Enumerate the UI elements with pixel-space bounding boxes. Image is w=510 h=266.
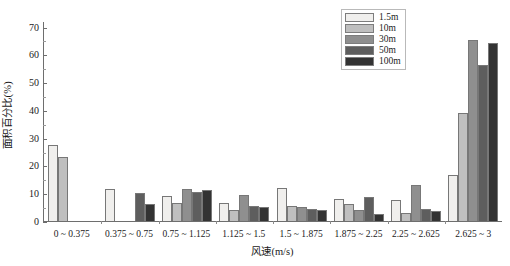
bar-group [159,22,216,221]
bar-1-5m[interactable] [105,189,115,221]
y-tick-label: 70 [21,23,39,33]
bar-50m[interactable] [478,65,488,221]
bar-10m[interactable] [58,157,68,221]
y-tick-label: 10 [21,189,39,199]
y-tick-label: 0 [21,217,39,227]
bar-50m[interactable] [135,193,145,221]
x-tick-mark [388,221,389,224]
bar-50m[interactable] [364,197,374,221]
legend-item[interactable]: 30m [345,34,401,45]
x-tick-mark [216,221,217,224]
bar-100m[interactable] [317,210,327,221]
x-axis-tick-labels: 0 ~ 0.3750.375 ~ 0.750.75 ~ 1.1251.125 ~… [43,226,502,242]
legend-swatch [345,57,374,66]
bar-10m[interactable] [287,206,297,221]
bar-1-5m[interactable] [391,200,401,221]
bar-100m[interactable] [202,190,212,221]
bar-30m[interactable] [239,195,249,221]
legend-label: 10m [379,24,396,34]
bar-1-5m[interactable] [448,175,458,221]
x-axis-title: 风速(m/s) [43,243,502,258]
x-tick-mark [159,221,160,224]
legend-label: 1.5m [379,13,398,23]
bar-50m[interactable] [249,206,259,221]
bar-10m[interactable] [229,210,239,221]
bar-1-5m[interactable] [48,145,58,221]
bar-1-5m[interactable] [277,188,287,221]
legend-item[interactable]: 10m [345,23,401,34]
bar-1-5m[interactable] [162,196,172,221]
legend-swatch [345,13,374,22]
y-tick-label: 60 [21,50,39,60]
bar-100m[interactable] [374,214,384,221]
legend-label: 30m [379,35,396,45]
bar-30m[interactable] [182,189,192,221]
bar-groups [44,22,502,221]
x-tick-label: 0.75 ~ 1.125 [158,226,215,242]
bar-50m[interactable] [307,209,317,222]
legend-label: 50m [379,46,396,56]
legend-item[interactable]: 100m [345,56,401,67]
bar-group [44,22,101,221]
x-tick-mark [445,221,446,224]
legend: 1.5m10m30m50m100m [341,9,406,70]
bar-10m[interactable] [172,203,182,221]
x-tick-label: 2.625 ~ 3 [445,226,502,242]
y-tick-mark [43,222,47,223]
x-tick-label: 1.5 ~ 1.875 [273,226,330,242]
bar-group [216,22,273,221]
legend-item[interactable]: 1.5m [345,12,401,23]
bar-group [273,22,330,221]
y-tick-label: 20 [21,161,39,171]
bar-10m[interactable] [458,113,468,221]
bar-50m[interactable] [421,209,431,222]
y-tick-label: 30 [21,134,39,144]
bar-100m[interactable] [145,204,155,221]
bar-100m[interactable] [488,43,498,221]
legend-swatch [345,46,374,55]
wind-speed-area-percentage-bar-chart: 面积百分比(%) 010203040506070 0 ~ 0.3750.375 … [0,0,510,266]
x-tick-label: 2.25 ~ 2.625 [387,226,444,242]
bar-group [445,22,502,221]
legend-swatch [345,35,374,44]
bar-30m[interactable] [297,207,307,221]
bar-10m[interactable] [401,213,411,221]
bar-30m[interactable] [354,210,364,221]
y-tick-label: 50 [21,78,39,88]
bar-group [101,22,158,221]
x-tick-label: 1.125 ~ 1.5 [215,226,272,242]
bar-30m[interactable] [468,40,478,221]
y-axis-title: 面积百分比(%) [0,60,14,170]
bar-1-5m[interactable] [334,199,344,221]
x-tick-label: 1.875 ~ 2.25 [330,226,387,242]
bar-10m[interactable] [344,204,354,221]
y-tick-label: 40 [21,106,39,116]
x-tick-mark [101,221,102,224]
plot-area: 010203040506070 [43,22,502,222]
x-tick-mark [273,221,274,224]
bar-50m[interactable] [192,192,202,221]
legend-label: 100m [379,57,401,67]
bar-100m[interactable] [259,207,269,221]
legend-swatch [345,24,374,33]
x-tick-label: 0.375 ~ 0.75 [100,226,157,242]
x-tick-mark [330,221,331,224]
bar-30m[interactable] [411,185,421,221]
bar-1-5m[interactable] [219,203,229,221]
bar-100m[interactable] [431,211,441,221]
x-tick-label: 0 ~ 0.375 [43,226,100,242]
legend-item[interactable]: 50m [345,45,401,56]
